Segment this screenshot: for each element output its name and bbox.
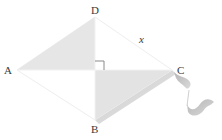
vertex-label-a: A (4, 64, 12, 76)
vertex-label-c: C (177, 64, 184, 76)
kite-diagram: D A C B x (0, 0, 222, 140)
shaded-region-ado (17, 17, 95, 70)
vertex-label-b: B (91, 123, 98, 135)
kite-tail-bow (187, 99, 214, 115)
vertex-label-d: D (91, 4, 99, 16)
side-label-x: x (138, 33, 144, 45)
kite-tail-string (187, 90, 189, 106)
